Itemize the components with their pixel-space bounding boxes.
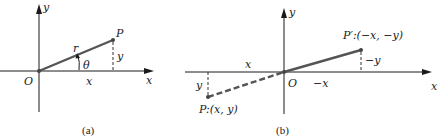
panel-b-y-axis-arrow-icon (281, 8, 287, 18)
panel-a-origin-label: O (24, 75, 33, 88)
panel-b-neg-x-component-label: −x (313, 77, 329, 90)
panel-a-point-label: P (115, 27, 124, 40)
panel-b-point-p-prime-label: P′:(−x, −y) (342, 29, 403, 42)
panel-a: y x O x P y r θ (a) (0, 1, 154, 137)
panel-b-y-component-label: y (195, 79, 203, 92)
panel-b-y-axis-label: y (288, 6, 296, 19)
panel-b: y x O x y −x −y P′:(−x, −y) P:(x, y) (b) (185, 6, 438, 137)
panel-a-y-axis-arrow-icon (36, 4, 42, 14)
panel-a-y-axis-label: y (42, 1, 50, 14)
panel-b-point-p (206, 95, 210, 99)
panel-b-vector-p-prime (284, 50, 361, 72)
panel-a-point-p (111, 38, 115, 42)
panel-b-neg-y-component-label: −y (365, 54, 381, 67)
panel-a-y-component-label: y (116, 50, 124, 63)
panel-b-origin-label: O (288, 77, 297, 90)
panel-b-x-axis-arrow-icon (422, 69, 432, 75)
panel-b-x-component-label: x (245, 58, 252, 71)
panel-a-x-component-label: x (86, 75, 93, 88)
panel-a-caption: (a) (82, 124, 95, 137)
polar-coordinates-figure: y x O x P y r θ (a) y x O x y −x −y (0, 0, 441, 138)
panel-b-point-p-label: P:(x, y) (198, 103, 238, 116)
panel-b-x-axis-label: x (431, 80, 438, 93)
panel-a-radius-label: r (73, 42, 79, 55)
panel-b-point-p-prime (359, 48, 363, 52)
panel-b-origin-point (282, 70, 286, 74)
panel-b-vector-p (208, 72, 284, 97)
panel-a-angle-label: θ (83, 59, 90, 72)
panel-a-x-axis-label: x (146, 74, 153, 87)
panel-a-origin-point (37, 69, 41, 73)
panel-b-caption: (b) (276, 124, 289, 137)
